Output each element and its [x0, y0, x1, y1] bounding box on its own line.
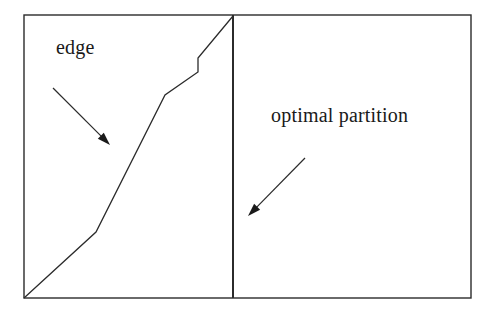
edge-label: edge [56, 37, 95, 57]
figure-root: edge optimal partition [0, 0, 496, 317]
optimal-partition-label: optimal partition [271, 105, 408, 125]
